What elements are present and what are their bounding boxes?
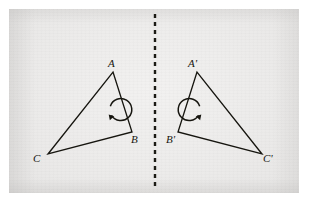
figure-root: A B C A' B' C': [0, 0, 310, 204]
triangle-original: [48, 72, 132, 154]
vertex-label-b-prime: B': [166, 134, 175, 145]
vertex-label-a-prime: A': [188, 58, 197, 69]
diagram-canvas: [0, 0, 310, 204]
orientation-arc-original: [110, 99, 131, 121]
vertex-label-c-prime: C': [263, 153, 273, 164]
orientation-arc-image: [178, 99, 199, 121]
orientation-arrow-counterclockwise: [178, 99, 201, 121]
vertex-label-a: A: [108, 58, 115, 69]
orientation-arrow-clockwise: [109, 99, 132, 121]
triangle-image: [178, 72, 262, 154]
vertex-label-b: B: [131, 134, 138, 145]
vertex-label-c: C: [33, 153, 40, 164]
